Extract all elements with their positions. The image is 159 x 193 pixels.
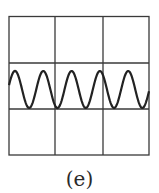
grid [9,17,149,156]
grid-border [9,17,149,156]
oscilloscope-figure [0,0,159,193]
figure-caption: (e) [0,167,159,191]
sine-wave [9,71,149,108]
